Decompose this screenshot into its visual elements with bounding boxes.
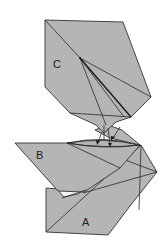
flap-c: C (45, 20, 151, 140)
flap-c-apex-point (79, 57, 81, 59)
flap-c-label: C (53, 58, 61, 70)
flap-a-label: A (82, 216, 90, 228)
flap-b-label: B (36, 149, 43, 161)
origami-diagram: A B C (0, 0, 167, 249)
